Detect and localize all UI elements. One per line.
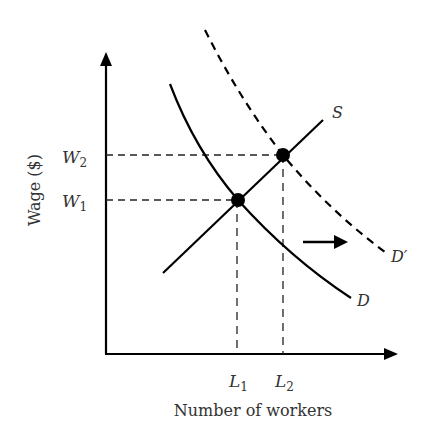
equilibrium-point-1 xyxy=(231,193,245,207)
demand-shifted-label: D′ xyxy=(390,247,408,266)
w1-label: W1 xyxy=(62,191,87,214)
y-axis-title: Wage ($) xyxy=(25,154,44,226)
shift-arrow-head-icon xyxy=(334,235,348,249)
supply-label: S xyxy=(332,103,343,122)
w2-label: W2 xyxy=(62,147,87,170)
x-axis-title: Number of workers xyxy=(174,401,333,420)
equilibrium-point-2 xyxy=(276,148,290,162)
demand-curve-d xyxy=(170,84,351,298)
y-axis-arrow-icon xyxy=(100,52,112,66)
x-axis-arrow-icon xyxy=(384,348,398,360)
l2-label: L2 xyxy=(274,371,294,394)
demand-curve-d-prime xyxy=(205,30,389,255)
labor-market-diagram: S D D′ W2 W1 L1 L2 Number of workers Wag… xyxy=(0,0,435,433)
demand-label: D xyxy=(356,291,370,310)
l1-label: L1 xyxy=(228,371,248,394)
